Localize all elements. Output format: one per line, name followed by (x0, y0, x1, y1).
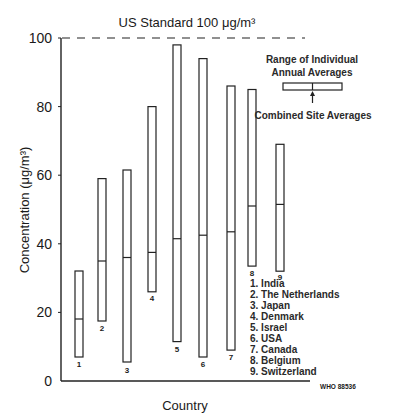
bar-india (75, 271, 83, 357)
y-tick-80: 80 (36, 99, 52, 115)
country-6: 6. USA (250, 333, 282, 344)
range-chart: US Standard 100 μg/m³ 100 80 60 40 20 0 … (0, 0, 397, 419)
y-tick-60: 60 (36, 167, 52, 183)
y-tick-100: 100 (29, 30, 53, 46)
legend-range-line1: Range of Individual (266, 54, 358, 65)
bar-israel (173, 45, 181, 342)
y-tick-20: 20 (36, 304, 52, 320)
bar-netherlands (98, 179, 106, 321)
who-code: WHO 88536 (320, 383, 356, 390)
y-tick-0: 0 (44, 373, 52, 389)
bar-label-2: 2 (100, 324, 105, 333)
country-4: 4. Denmark (250, 311, 304, 322)
country-1: 1. India (250, 278, 285, 289)
bar-switzerland (276, 144, 284, 271)
country-9: 9. Switzerland (250, 366, 317, 377)
bar-denmark (148, 107, 156, 292)
bar-label-7: 7 (229, 353, 234, 362)
bar-japan (123, 170, 131, 362)
legend-range-line2: Annual Averages (272, 67, 353, 78)
bar-label-6: 6 (201, 360, 206, 369)
x-axis-label: Country (162, 398, 208, 413)
y-axis-label: Concentration (μg/m³) (17, 147, 32, 274)
country-3: 3. Japan (250, 300, 290, 311)
bar-label-8: 8 (250, 269, 255, 278)
country-8: 8. Belgium (250, 355, 301, 366)
legend-median-label: Combined Site Averages (254, 110, 372, 121)
legend: Range of Individual Annual Averages Comb… (254, 54, 372, 121)
y-tick-40: 40 (36, 236, 52, 252)
bar-usa (199, 59, 207, 357)
country-7: 7. Canada (250, 344, 298, 355)
country-2: 2. The Netherlands (250, 289, 340, 300)
bar-label-1: 1 (77, 360, 82, 369)
country-5: 5. Israel (250, 322, 287, 333)
y-ticks: 100 80 60 40 20 0 (29, 30, 61, 389)
bar-label-3: 3 (125, 366, 130, 375)
bar-label-5: 5 (175, 345, 180, 354)
bar-canada (227, 86, 235, 350)
country-list: 1. India 2. The Netherlands 3. Japan 4. … (250, 278, 340, 377)
bar-label-4: 4 (150, 294, 155, 303)
chart-title: US Standard 100 μg/m³ (119, 15, 257, 30)
